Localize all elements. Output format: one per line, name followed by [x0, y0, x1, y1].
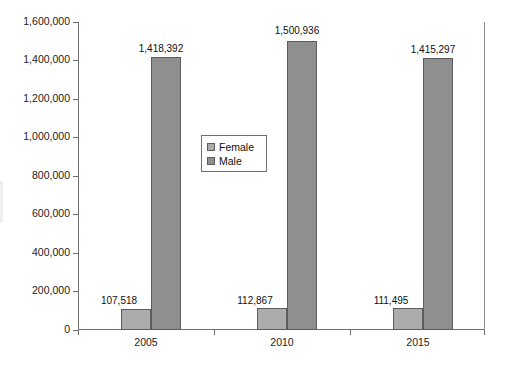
legend-swatch-female-icon	[207, 143, 215, 151]
legend-label-male: Male	[219, 156, 242, 167]
y-axis-label-1600000: 1,600,000	[0, 16, 70, 28]
bar-male-2005[interactable]	[151, 57, 181, 330]
legend-swatch-male-icon	[207, 157, 215, 165]
y-axis-label-400000: 400,000	[0, 247, 70, 259]
bar-male-2015[interactable]	[423, 58, 453, 330]
bar-label-female-2005: 107,518	[90, 296, 148, 306]
x-axis-label-2015: 2015	[388, 337, 448, 348]
y-axis-label-200000: 200,000	[0, 285, 70, 297]
y-axis-label-800000: 800,000	[0, 170, 70, 182]
x-axis-label-2005: 2005	[116, 337, 176, 348]
bar-label-female-2010: 112,867	[226, 296, 284, 306]
x-tick-right-edge	[484, 330, 485, 335]
bar-label-male-2015: 1,415,297	[401, 45, 465, 55]
bar-female-2005[interactable]	[121, 309, 151, 330]
bar-chart: 1,600,000 1,400,000 1,200,000 1,000,000 …	[0, 0, 506, 367]
y-axis-label-1000000: 1,000,000	[0, 131, 70, 143]
y-axis-label-0: 0	[0, 324, 70, 336]
y-axis-label-1400000: 1,400,000	[0, 54, 70, 66]
y-axis-label-1200000: 1,200,000	[0, 93, 70, 105]
bar-label-female-2015: 111,495	[362, 296, 420, 306]
x-axis-label-2010: 2010	[252, 337, 312, 348]
x-tick-group-boundary-2	[350, 330, 351, 335]
bar-male-2010[interactable]	[287, 41, 317, 330]
bar-female-2015[interactable]	[393, 308, 423, 330]
x-tick-group-boundary-1	[214, 330, 215, 335]
plot-right-border	[484, 22, 485, 331]
legend-item-female[interactable]: Female	[207, 140, 266, 154]
bar-label-male-2010: 1,500,936	[265, 26, 329, 36]
bar-female-2010[interactable]	[257, 308, 287, 330]
y-axis-label-600000: 600,000	[0, 208, 70, 220]
legend-item-male[interactable]: Male	[207, 154, 266, 168]
legend: Female Male	[201, 135, 267, 172]
bar-label-male-2005: 1,418,392	[129, 44, 193, 54]
x-tick-left-edge	[78, 330, 79, 335]
legend-label-female: Female	[219, 142, 254, 153]
